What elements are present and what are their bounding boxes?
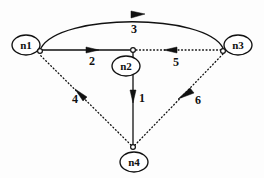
- node-n4-label: n4: [128, 156, 140, 168]
- node-n4[interactable]: n4: [120, 145, 148, 172]
- node-n3[interactable]: n3: [221, 35, 252, 55]
- node-n1-port[interactable]: [38, 49, 43, 54]
- edge-3-arrowhead: [131, 11, 145, 18]
- node-n2-port[interactable]: [131, 48, 136, 53]
- edge-6[interactable]: 6: [135, 54, 223, 145]
- node-n4-port[interactable]: [131, 145, 136, 150]
- edge-5[interactable]: 5: [136, 47, 221, 69]
- edge-1-label: 1: [139, 91, 145, 105]
- edge-6-label: 6: [195, 93, 201, 107]
- graph-diagram-svg: 3 2 5 1 4 6: [0, 0, 264, 178]
- node-n3-port[interactable]: [221, 49, 226, 54]
- edge-2-arrowhead: [86, 47, 99, 53]
- edge-1-arrowhead: [130, 90, 136, 103]
- edge-3-label: 3: [131, 22, 137, 36]
- edge-2-label: 2: [89, 54, 95, 68]
- node-n1[interactable]: n1: [12, 35, 42, 55]
- edge-6-arrowhead: [178, 88, 194, 99]
- node-n1-label: n1: [20, 39, 32, 51]
- node-n2[interactable]: n2: [112, 48, 140, 76]
- node-n2-label: n2: [120, 60, 132, 72]
- edge-3[interactable]: 3: [41, 11, 223, 48]
- node-n3-label: n3: [232, 39, 244, 51]
- edge-5-arrowhead: [164, 47, 177, 53]
- edge-6-line: [135, 54, 223, 145]
- edge-4-label: 4: [72, 92, 78, 106]
- edge-5-label: 5: [173, 55, 179, 69]
- graph-diagram-canvas: 3 2 5 1 4 6: [0, 0, 264, 178]
